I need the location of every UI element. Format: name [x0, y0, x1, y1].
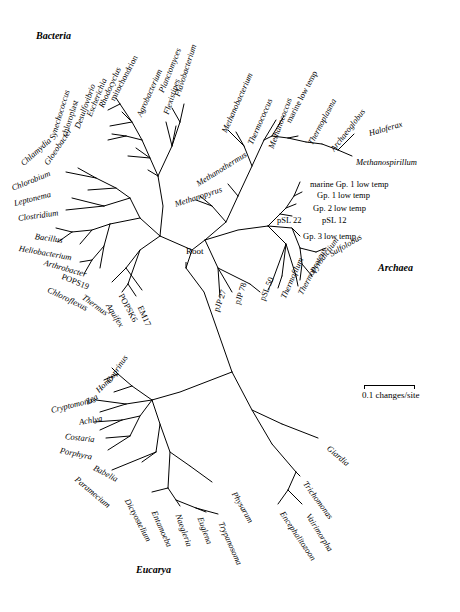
taxon-label: pSL 22: [277, 216, 301, 225]
scale-bar-tick-right: [414, 385, 415, 389]
domain-label-bacteria: Bacteria: [36, 31, 71, 41]
taxon-label: Methanospirillum: [356, 158, 417, 167]
scale-label: 0.1 changes/site: [362, 391, 420, 400]
taxon-label: Gp. 2 low temp: [313, 204, 366, 213]
domain-label-archaea: Archaea: [378, 263, 413, 273]
taxon-label: Gp. 1 low temp: [317, 191, 370, 200]
scale-bar: [364, 385, 414, 386]
scale-bar-tick-left: [364, 385, 365, 389]
phylogenetic-tree-figure: Bacteria Archaea Eucarya Root 0.1 change…: [0, 0, 460, 612]
taxon-label: marine Gp. 1 low temp: [310, 180, 389, 189]
root-label: Root: [186, 247, 204, 256]
taxon-label: pSL 12: [322, 216, 346, 225]
domain-label-eucarya: Eucarya: [136, 565, 171, 575]
taxon-label: Gp. 3 low temp: [303, 232, 356, 241]
